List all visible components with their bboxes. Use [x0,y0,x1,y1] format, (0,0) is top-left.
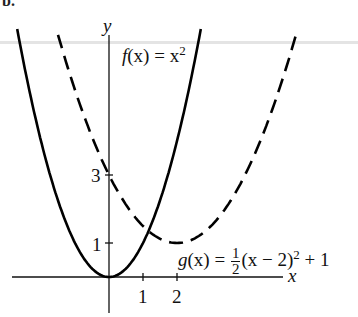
g-equation-label: g(x) = 12(x − 2)2 + 1 [178,246,329,277]
g-tail: + 1 [300,249,330,270]
y-tick-label-3: 3 [91,166,101,185]
x-tick-label-2: 2 [172,287,182,306]
g-arg: (x) = [188,249,226,270]
x-tick-label-1: 1 [138,287,148,306]
f-arg: (x) = x [127,45,179,66]
y-axis-label: y [103,16,111,35]
g-fraction: 12 [231,246,241,277]
g-name: g [178,249,188,270]
y-tick-label-1: 1 [92,235,102,254]
g-rest: (x − 2) [241,249,293,270]
f-equation-label: f(x) = x2 [122,44,186,65]
f-exponent: 2 [179,43,186,58]
